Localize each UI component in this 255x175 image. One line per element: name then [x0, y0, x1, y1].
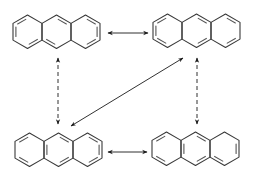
molecule-top-left: Anthracene resonance structure 1 — [13, 15, 100, 48]
arrow-diagonal — [71, 58, 183, 126]
resonance-diagram: Anthracene resonance structure 1Anthrace… — [0, 0, 255, 175]
molecule-bottom-right: Anthracene resonance structure 4 — [152, 132, 239, 165]
molecule-top-right: Anthracene resonance structure 2 — [153, 14, 240, 47]
molecule-bottom-left: Anthracene resonance structure 3 — [15, 133, 102, 166]
